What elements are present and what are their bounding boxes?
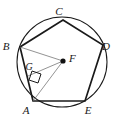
point-label-g: G [25, 61, 32, 72]
vertex-label-c: C [55, 5, 63, 17]
center-point-dot [60, 58, 65, 63]
geometry-canvas: A B C D E F G [0, 0, 120, 122]
vertex-label-a: A [22, 104, 30, 116]
vertex-label-e: E [84, 104, 92, 116]
vertex-label-d: D [101, 40, 110, 52]
geometry-figure: A B C D E F G [0, 0, 120, 122]
vertex-label-b: B [3, 40, 10, 52]
segment-fb [20, 47, 63, 61]
center-label-f: F [68, 52, 76, 64]
segment-fa [33, 61, 63, 101]
